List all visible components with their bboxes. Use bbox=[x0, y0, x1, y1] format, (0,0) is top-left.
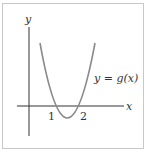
y-axis-label: y bbox=[24, 13, 32, 26]
tick-label-2: 2 bbox=[80, 110, 87, 123]
x-axis-label: x bbox=[126, 100, 133, 113]
tick-label-1: 1 bbox=[48, 110, 55, 123]
curve-g bbox=[40, 43, 95, 118]
graph: y x 1 2 y = g(x) bbox=[0, 0, 153, 155]
curve-label: y = g(x) bbox=[93, 72, 138, 85]
